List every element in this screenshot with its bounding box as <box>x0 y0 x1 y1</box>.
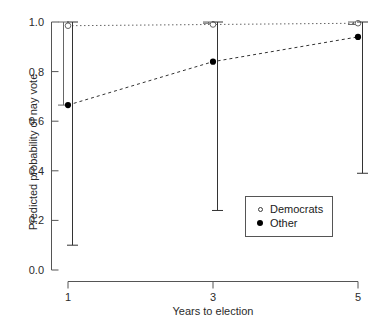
x-axis-title: Years to election <box>68 305 358 317</box>
legend-item-other: Other <box>253 216 323 230</box>
x-tick-label: 3 <box>210 292 216 303</box>
legend-item-democrats: Democrats <box>253 202 323 216</box>
legend-label: Democrats <box>267 203 323 215</box>
filled-circle-icon <box>253 220 267 226</box>
x-tick-label: 5 <box>355 292 361 303</box>
plot-canvas <box>0 0 387 328</box>
chart-figure: 0.00.20.40.60.81.0 135 Predicted probabi… <box>0 0 387 328</box>
axis-layer <box>52 22 359 289</box>
x-tick-label: 1 <box>65 292 71 303</box>
open-circle-icon <box>253 207 267 212</box>
legend: Democrats Other <box>245 196 333 237</box>
y-axis-title: Predicted probability of nay vote <box>27 32 39 272</box>
legend-label: Other <box>267 217 298 229</box>
y-tick-label: 1.0 <box>8 17 44 28</box>
